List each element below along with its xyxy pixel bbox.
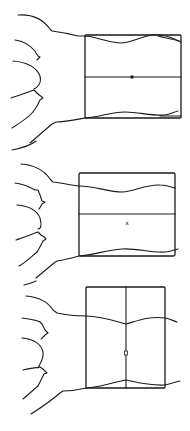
hand-outline-3: [22, 281, 180, 414]
panel-2: x: [12, 141, 178, 278]
marker-2: x: [125, 219, 129, 226]
panel-3: [22, 281, 180, 414]
panel-1: [11, 15, 181, 143]
hand-outline-2: [12, 141, 178, 278]
marker-1: [131, 76, 134, 79]
marker-3: [125, 351, 128, 355]
hand-outline-1: [11, 15, 181, 143]
hand-pad-diagram: x: [0, 0, 190, 431]
